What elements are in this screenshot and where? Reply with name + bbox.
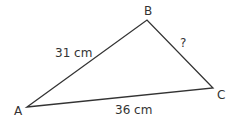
vertex-label-b: B — [144, 4, 152, 18]
side-label-ac: 36 cm — [115, 103, 152, 117]
triangle-canvas: A B C 31 cm ? 36 cm — [0, 0, 236, 125]
side-label-ab: 31 cm — [55, 46, 92, 60]
triangle-diagram: A B C 31 cm ? 36 cm — [0, 0, 236, 125]
vertex-label-c: C — [217, 88, 225, 102]
vertex-label-a: A — [14, 104, 23, 118]
side-label-bc: ? — [180, 36, 186, 50]
triangle-abc — [27, 20, 213, 107]
